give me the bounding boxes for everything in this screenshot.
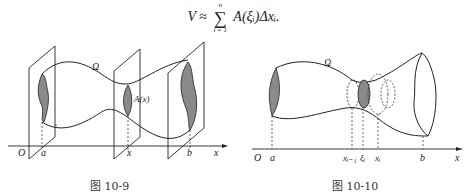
- volume-formula: V ≈ n ∑ i = 1 A(ξᵢ)Δxᵢ.: [0, 2, 467, 34]
- label-x-i: xᵢ: [374, 153, 381, 163]
- formula-rhs: A(ξᵢ)Δxᵢ.: [233, 9, 279, 24]
- formula-lhs: V: [187, 9, 195, 24]
- sum-lower: i = 1: [213, 27, 227, 34]
- label-section-area: A(x): [133, 94, 150, 104]
- label-axis-x: x: [213, 147, 219, 158]
- figure-10-10: Ω O a xᵢ₋₁ ξᵢ xᵢ b x: [230, 38, 467, 163]
- summation: n ∑ i = 1: [213, 2, 227, 34]
- label-a: a: [270, 152, 275, 163]
- label-xi-point: ξᵢ: [360, 153, 366, 163]
- label-origin: O: [254, 152, 261, 163]
- label-x-i-minus-1: xᵢ₋₁: [342, 153, 357, 163]
- caption-fig-10-9: 图 10-9: [90, 177, 129, 193]
- label-axis-x: x: [454, 152, 460, 163]
- label-omega: Ω: [324, 57, 331, 68]
- label-a: a: [41, 147, 46, 158]
- label-omega: Ω: [92, 61, 99, 72]
- caption-fig-10-10: 图 10-10: [332, 177, 378, 193]
- formula-approx: ≈: [199, 9, 207, 24]
- label-x: x: [126, 147, 132, 158]
- label-b: b: [187, 147, 192, 158]
- sum-symbol: ∑: [213, 9, 227, 27]
- label-b: b: [420, 152, 425, 163]
- figure-10-9: Ω A(x) O a x b x: [0, 38, 230, 163]
- label-origin: O: [18, 147, 25, 158]
